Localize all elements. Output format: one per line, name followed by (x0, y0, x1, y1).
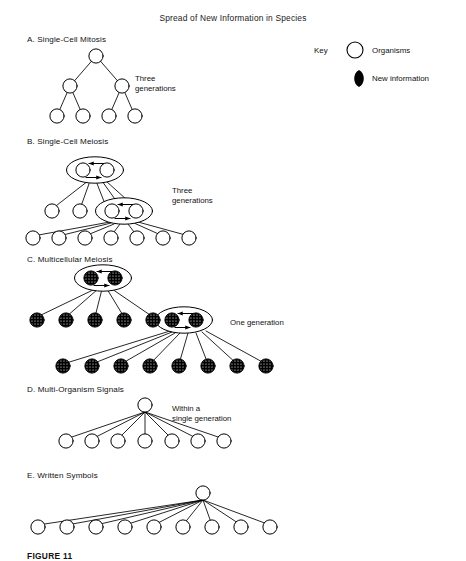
key-organism-icon (347, 42, 363, 58)
key-newinfo-icon (354, 70, 364, 87)
tree-c-nodes (30, 271, 274, 373)
tree-a-nodes (50, 49, 142, 123)
figure-diagram: Spread of New Information in Species A. … (0, 0, 466, 561)
diagram-canvas (0, 0, 466, 561)
tree-e-nodes (31, 486, 278, 534)
